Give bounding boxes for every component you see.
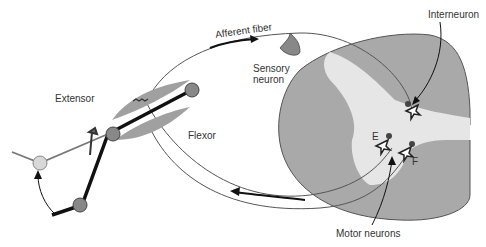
foot-bone <box>12 134 108 163</box>
label-f: F <box>412 156 418 167</box>
sensory-neuron-body <box>280 33 300 55</box>
joint-ankle <box>73 198 87 212</box>
label-flexor: Flexor <box>188 130 216 141</box>
movement-arrow <box>38 175 55 214</box>
stimulus-pin <box>89 128 97 155</box>
label-sensory: Sensory <box>253 63 290 74</box>
label-extensor: Extensor <box>55 93 94 104</box>
label-neuron: neuron <box>253 74 284 85</box>
joint-distal <box>33 156 47 170</box>
joint-hip <box>185 83 199 97</box>
label-interneuron: Interneuron <box>428 9 479 20</box>
label-motor-neurons: Motor neurons <box>336 228 400 239</box>
joint-knee <box>106 127 120 141</box>
reflex-arc-diagram <box>0 0 486 247</box>
label-e: E <box>372 131 379 142</box>
